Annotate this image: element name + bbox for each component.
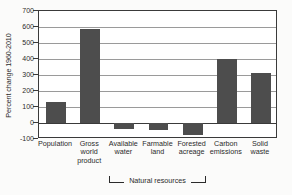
bar [114, 123, 134, 129]
x-axis-label: Farmable land [140, 140, 174, 157]
y-axis-title-text: Percent change 1960-2010 [4, 33, 13, 117]
bar-chart: Percent change 1960-2010 700600500400300… [0, 0, 292, 195]
y-tick-label: -100 [20, 135, 34, 142]
y-tick-mark [33, 58, 38, 59]
bars-group [39, 11, 276, 137]
bar [251, 73, 271, 123]
x-axis-category-labels: PopulationGross world productAvailable w… [38, 140, 277, 170]
bar [217, 59, 237, 123]
bracket-label: Natural resources [109, 176, 206, 185]
x-axis-label: Gross world product [72, 140, 106, 165]
bar [149, 123, 169, 130]
y-tick-mark [33, 106, 38, 107]
natural-resources-bracket: Natural resources [109, 174, 206, 188]
y-tick-mark [33, 74, 38, 75]
bar [46, 102, 66, 123]
y-tick-mark [33, 10, 38, 11]
y-tick-mark [33, 42, 38, 43]
x-axis-label: Available water [106, 140, 140, 157]
plot-area [38, 10, 277, 138]
y-tick-mark [33, 122, 38, 123]
y-tick-mark [33, 26, 38, 27]
x-axis-label: Forested acreage [175, 140, 209, 157]
x-axis-label: Population [38, 140, 72, 148]
bar [183, 123, 203, 135]
x-axis-label: Solid waste [243, 140, 277, 157]
bar [80, 29, 100, 123]
x-axis-label: Carbon emissions [209, 140, 243, 157]
y-tick-mark [33, 90, 38, 91]
